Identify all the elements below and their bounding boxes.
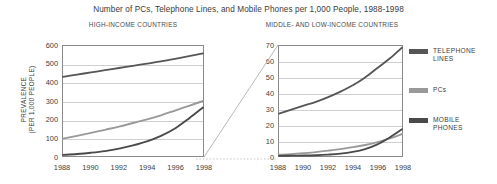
series-line-telephone-lines [279, 48, 402, 114]
y-tick-label: 100 [28, 134, 58, 143]
panel-title-high-income: HIGH-INCOME COUNTRIES [62, 21, 204, 28]
plot-area-middle-low-income [278, 45, 403, 157]
series-lines-right [279, 46, 402, 156]
x-tick-label: 1994 [340, 163, 366, 172]
legend-label: MOBILE PHONES [433, 116, 463, 133]
legend-swatch [409, 49, 428, 54]
legend-label: PCs [433, 86, 446, 94]
legend-swatch [409, 88, 428, 93]
series-line-mobile-phones [63, 107, 203, 154]
legend-label: TELEPHONE LINES [433, 47, 476, 64]
series-line-telephone-lines [63, 53, 203, 76]
series-line-mobile-phones [279, 129, 402, 156]
series-lines-left [63, 46, 203, 156]
y-axis-title-line1: PREVALENCE [20, 40, 27, 160]
x-tick-label: 1988 [49, 163, 75, 172]
legend-item: TELEPHONE LINES [409, 47, 476, 64]
legend-item: PCs [409, 86, 446, 94]
x-tick-label: 1992 [315, 163, 341, 172]
zoom-callout-connector [196, 40, 286, 165]
y-tick-label: 400 [28, 78, 58, 87]
series-line-pcs [279, 134, 402, 155]
plot-area-high-income [62, 45, 204, 157]
page-title: Number of PCs, Telephone Lines, and Mobi… [0, 5, 497, 14]
panel-title-middle-low-income: MIDDLE- AND LOW-INCOME COUNTRIES [258, 21, 406, 28]
x-tick-label: 1998 [390, 163, 416, 172]
x-tick-label: 1996 [163, 163, 189, 172]
x-tick-label: 1994 [134, 163, 160, 172]
legend-item: MOBILE PHONES [409, 116, 463, 133]
y-tick-label: 300 [28, 97, 58, 106]
x-tick-label: 1990 [290, 163, 316, 172]
y-tick-label: 0 [28, 153, 58, 162]
chart-figure: Number of PCs, Telephone Lines, and Mobi… [0, 0, 497, 184]
x-tick-label: 1990 [77, 163, 103, 172]
x-tick-label: 1996 [365, 163, 391, 172]
y-tick-label: 500 [28, 59, 58, 68]
legend-swatch [409, 118, 428, 123]
series-line-pcs [63, 101, 203, 139]
x-tick-label: 1992 [106, 163, 132, 172]
y-tick-label: 200 [28, 115, 58, 124]
y-tick-label: 600 [28, 41, 58, 50]
